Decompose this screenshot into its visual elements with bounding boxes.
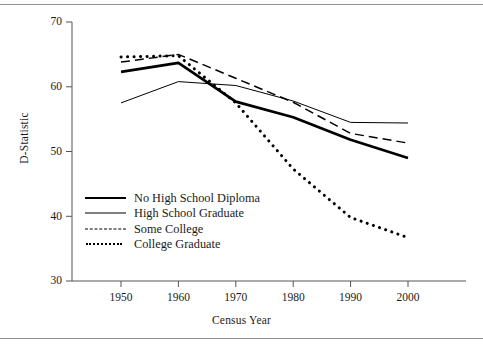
x-tick-label-1950: 1950	[98, 292, 144, 304]
y-tick-label-60: 60	[28, 81, 62, 93]
x-tick-label-1960: 1960	[155, 292, 201, 304]
legend-item-high-school-graduate: High School Graduate	[83, 206, 283, 222]
y-tick-label-70: 70	[28, 16, 62, 28]
legend-swatch-thin-solid-icon	[83, 207, 128, 219]
legend-item-no-high-school-diploma: No High School Diploma	[83, 190, 283, 206]
x-tick-label-1970: 1970	[213, 292, 259, 304]
legend-swatch-thick-solid-icon	[83, 192, 128, 204]
y-tick-label-30: 30	[28, 275, 62, 287]
x-axis-title: Census Year	[0, 314, 483, 326]
x-tick-label-1980: 1980	[270, 292, 316, 304]
y-axis-title: D-Statistic	[18, 93, 30, 183]
series-line-some-college	[121, 54, 408, 143]
legend-label-no-high-school-diploma: No High School Diploma	[134, 192, 260, 204]
y-tick-label-50: 50	[28, 146, 62, 158]
chart-legend: No High School Diploma High School Gradu…	[83, 190, 283, 252]
x-tick-label-2000: 2000	[385, 292, 431, 304]
legend-label-college-graduate: College Graduate	[134, 238, 220, 250]
y-tick-label-40: 40	[28, 211, 62, 223]
legend-label-high-school-graduate: High School Graduate	[134, 207, 244, 219]
legend-label-some-college: Some College	[134, 223, 203, 235]
series-line-high-school-graduate	[121, 82, 408, 123]
figure-container: 70 60 50 40 30 1950 1960 1970 1980 1990 …	[0, 0, 483, 349]
x-axis-ticks	[121, 281, 408, 287]
x-tick-label-1990: 1990	[328, 292, 374, 304]
legend-item-some-college: Some College	[83, 221, 283, 237]
legend-swatch-dashed-icon	[83, 223, 128, 235]
legend-item-college-graduate: College Graduate	[83, 237, 283, 253]
legend-swatch-dotted-icon	[83, 238, 128, 250]
y-axis-ticks	[66, 22, 72, 281]
series-line-no-high-school-diploma	[121, 63, 408, 158]
